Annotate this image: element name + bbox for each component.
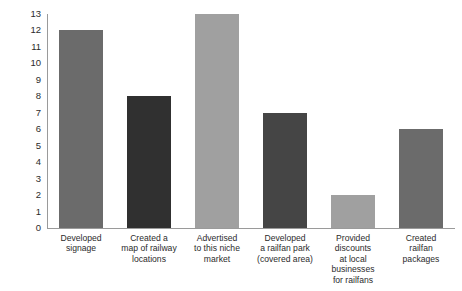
y-tick-3: 3 [0, 174, 41, 184]
x-axis-label: Created a map of railway locations [115, 233, 183, 264]
y-tick-8: 8 [0, 92, 41, 102]
x-axis-label: Developed signage [47, 233, 115, 254]
bar-slot [115, 14, 183, 228]
bar[interactable] [331, 195, 375, 228]
x-axis-label: Advertised to this niche market [183, 233, 251, 264]
bar-slot [183, 14, 251, 228]
y-tick-10: 10 [0, 59, 41, 69]
y-axis-tick-labels: 012345678910111213 [0, 14, 41, 228]
y-tick-0: 0 [0, 223, 41, 233]
bar-slot [47, 14, 115, 228]
y-tick-11: 11 [0, 42, 41, 52]
bar-slot [251, 14, 319, 228]
bar[interactable] [195, 14, 239, 228]
y-tick-4: 4 [0, 157, 41, 167]
bar[interactable] [263, 113, 307, 228]
bar-slot [387, 14, 455, 228]
bar[interactable] [127, 96, 171, 228]
y-tick-12: 12 [0, 26, 41, 36]
y-tick-9: 9 [0, 75, 41, 85]
bar[interactable] [399, 129, 443, 228]
bar-slot [319, 14, 387, 228]
bar-chart: 012345678910111213 Developed signageCrea… [0, 0, 462, 291]
bars-container [47, 14, 455, 228]
y-tick-13: 13 [0, 9, 41, 19]
x-axis-category-labels: Developed signageCreated a map of railwa… [47, 233, 455, 291]
y-tick-5: 5 [0, 141, 41, 151]
x-axis-baseline [47, 228, 455, 229]
x-axis-label: Developed a railfan park (covered area) [251, 233, 319, 264]
y-tick-1: 1 [0, 207, 41, 217]
y-tick-2: 2 [0, 190, 41, 200]
x-axis-label: Created railfan packages [387, 233, 455, 264]
y-tick-6: 6 [0, 124, 41, 134]
y-tick-7: 7 [0, 108, 41, 118]
x-axis-label: Provided discounts at local businesses f… [319, 233, 387, 285]
bar[interactable] [59, 30, 103, 228]
